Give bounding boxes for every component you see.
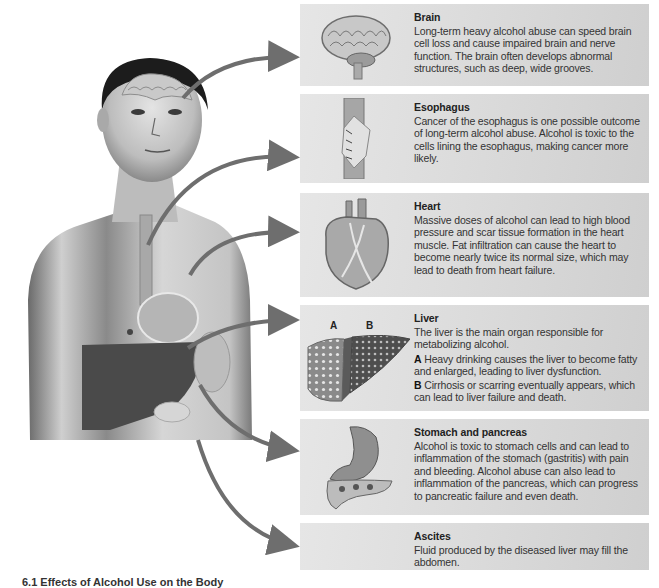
heart-icon [306,197,406,293]
panel-title: Brain [414,11,641,23]
panel-ascites: Ascites Fluid produced by the diseased l… [300,523,649,570]
panel-liver: A B Liver The liver is the main organ re… [300,305,649,411]
panel-esophagus: Esophagus Cancer of the esophagus is one… [300,94,649,183]
human-figure-icon [0,0,300,584]
panel-description: Cancer of the esophagus is one possible … [414,115,641,165]
panel-description: Massive doses of alcohol can lead to hig… [414,214,641,276]
note-text: Heavy drinking causes the liver to becom… [414,353,637,377]
panel-title: Ascites [414,530,641,542]
esophagus-icon [306,98,406,179]
liver-label-a: A [330,320,337,331]
panel-title: Stomach and pancreas [414,426,641,438]
panel-description: Fluid produced by the diseased liver may… [414,544,641,569]
brain-icon [306,8,406,82]
liver-icon: A B [306,309,406,407]
panel-description: Long-term heavy alcohol abuse can speed … [414,25,641,75]
stomach-pancreas-icon [306,423,406,511]
torso-illustration [0,0,300,584]
panel-title: Liver [414,312,641,324]
panel-description: The liver is the main organ responsible … [414,326,641,351]
panel-description: Alcohol is toxic to stomach cells and ca… [414,440,641,502]
figure-caption: 6.1 Effects of Alcohol Use on the Body [22,576,223,588]
panel-note-a: A Heavy drinking causes the liver to bec… [414,353,641,378]
panel-brain: Brain Long-term heavy alcohol abuse can … [300,4,649,86]
panel-note-b: B Cirrhosis or scarring eventually appea… [414,379,641,404]
note-text: Cirrhosis or scarring eventually appears… [414,379,635,403]
panel-stomach-pancreas: Stomach and pancreas Alcohol is toxic to… [300,419,649,515]
panel-title: Esophagus [414,101,641,113]
panel-heart: Heart Massive doses of alcohol can lead … [300,193,649,297]
panel-title: Heart [414,200,641,212]
liver-label-b: B [366,320,373,331]
